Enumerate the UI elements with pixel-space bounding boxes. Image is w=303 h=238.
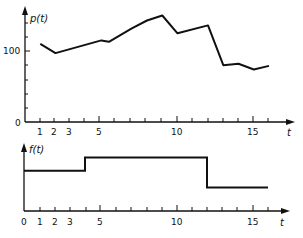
top-x-label: 3 — [66, 127, 72, 137]
top-x-label: 2 — [51, 127, 57, 137]
bottom-x-label: 15 — [247, 217, 258, 227]
f-series-step-line — [24, 157, 268, 187]
top-y-ticks — [25, 23, 30, 108]
bottom-x-label: 3 — [67, 217, 73, 227]
bottom-x-label: 0 — [21, 217, 27, 227]
bottom-x-label: 5 — [97, 217, 103, 227]
bottom-y-axis-arrow-icon — [21, 143, 27, 152]
top-x-label: 15 — [247, 127, 258, 137]
top-chart: 0 100 p(t) t 1 2 3 5 10 15 — [3, 6, 295, 138]
top-y-axis-title: p(t) — [29, 13, 48, 24]
top-x-axis-arrow-icon — [286, 119, 295, 125]
bottom-x-axis-arrow-icon — [281, 208, 290, 214]
top-x-label: 1 — [37, 127, 43, 137]
top-x-label: 5 — [96, 127, 102, 137]
bottom-x-ticks — [40, 205, 268, 211]
bottom-chart: f(t) t 0 1 2 3 5 10 15 — [21, 143, 290, 228]
bottom-x-label: 1 — [37, 217, 43, 227]
top-y-label-0: 0 — [15, 118, 21, 128]
top-y-axis-arrow-icon — [22, 6, 28, 15]
top-y-label-100: 100 — [3, 46, 20, 56]
bottom-x-label: 2 — [52, 217, 58, 227]
p-series-line — [40, 16, 269, 70]
bottom-x-axis-title: t — [280, 217, 285, 228]
figure: 0 100 p(t) t 1 2 3 5 10 15 — [0, 0, 303, 238]
top-x-label: 10 — [171, 127, 183, 137]
top-x-axis-title: t — [287, 127, 292, 138]
top-x-ticks — [40, 116, 268, 122]
bottom-y-axis-title: f(t) — [29, 144, 44, 155]
bottom-x-label: 10 — [171, 217, 183, 227]
